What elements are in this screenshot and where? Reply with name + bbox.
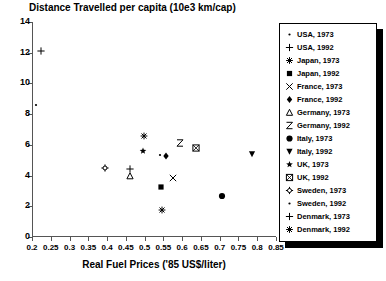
x-tick-mark [88,237,89,241]
legend-item[interactable]: Sweden, 1973 [280,184,376,197]
x-tick-label: 0.7 [214,243,225,252]
x-tick-label: 0.6 [177,243,188,252]
x-tick-mark [220,237,221,241]
legend-item[interactable]: France, 1992 [280,93,376,106]
legend-item[interactable]: Japan, 1973 [280,54,376,67]
data-point-plus [37,47,46,56]
y-tick-label: 6 [25,139,30,149]
filled-down-triangle-icon [284,146,295,157]
asterisk-icon [284,224,295,235]
legend-item-label: USA, 1992 [297,43,334,52]
y-axis-line [32,22,33,237]
x-tick-mark [51,237,52,241]
x-tick-label: 0.35 [81,243,97,252]
y-tick-label: 4 [25,170,30,180]
data-point-filled-square [156,183,165,192]
legend-item-label: UK, 1973 [297,160,329,169]
legend-item[interactable]: Japan, 1992 [280,67,376,80]
filled-circle-icon [284,133,295,144]
data-point-cross-x [168,173,177,182]
square-x-icon [284,172,295,183]
filled-star-icon [284,159,295,170]
y-tick: 10 [32,83,33,84]
legend-item[interactable]: Germany, 1973 [280,106,376,119]
y-tick: 12 [32,53,33,54]
plot-area: 02468101214 0.20.250.30.350.40.450.50.55… [32,22,276,237]
legend-item[interactable]: USA, 1973 [280,28,376,41]
x-tick-label: 0.45 [118,243,134,252]
legend-item[interactable]: Italy, 1973 [280,132,376,145]
legend-item-label: Sweden, 1992 [297,199,346,208]
y-tick: 14 [32,22,33,23]
plus-icon [284,211,295,222]
dot-icon [284,198,295,209]
legend-item-label: Japan, 1973 [297,56,340,65]
legend-item-label: UK, 1992 [297,173,329,182]
legend-item-label: France, 1992 [297,95,342,104]
legend-item[interactable]: Denmark, 1973 [280,210,376,223]
legend-item[interactable]: Italy, 1992 [280,145,376,158]
data-point-filled-star [139,147,148,156]
data-point-spoked-circle [101,163,110,172]
legend-item[interactable]: UK, 1973 [280,158,376,171]
x-tick-mark [163,237,164,241]
x-tick-mark [145,237,146,241]
filled-square-icon [284,68,295,79]
legend-item[interactable]: Germany, 1992 [280,119,376,132]
x-tick-mark [107,237,108,241]
x-tick-label: 0.25 [43,243,59,252]
data-point-filled-circle [217,192,226,201]
legend-item-label: Italy, 1973 [297,134,332,143]
y-tick-label: 0 [25,231,30,241]
x-tick-label: 0.75 [231,243,247,252]
legend-item[interactable]: France, 1973 [280,80,376,93]
data-point-square-x [192,143,201,152]
legend-item[interactable]: Sweden, 1992 [280,197,376,210]
dot-icon [284,29,295,40]
legend: USA, 1973USA, 1992Japan, 1973Japan, 1992… [279,23,377,242]
x-tick-mark [257,237,258,241]
x-tick-mark [276,237,277,241]
x-tick-label: 0.8 [252,243,263,252]
y-tick-label: 2 [25,200,30,210]
legend-item-label: Denmark, 1973 [297,212,350,221]
open-triangle-icon [284,107,295,118]
x-tick-label: 0.3 [64,243,75,252]
y-tick: 2 [32,206,33,207]
legend-item-label: Italy, 1992 [297,147,332,156]
legend-item-label: Sweden, 1973 [297,186,346,195]
legend-item-label: USA, 1973 [297,30,334,39]
data-point-filled-down-triangle [247,150,256,159]
legend-item[interactable]: Denmark, 1992 [280,223,376,236]
x-tick-mark [238,237,239,241]
y-tick-label: 10 [20,77,30,87]
y-tick: 8 [32,114,33,115]
hourglass-icon [284,120,295,131]
x-tick-mark [182,237,183,241]
x-tick-label: 0.2 [26,243,37,252]
y-tick-label: 8 [25,108,30,118]
data-point-open-triangle [126,171,135,180]
legend-item-label: Denmark, 1992 [297,225,350,234]
legend-item[interactable]: UK, 1992 [280,171,376,184]
asterisk-icon [284,55,295,66]
x-tick-label: 0.5 [139,243,150,252]
data-point-filled-diamond [161,152,170,161]
x-tick-label: 0.65 [193,243,209,252]
y-tick: 6 [32,145,33,146]
legend-item-label: Germany, 1992 [297,121,350,130]
y-tick-label: 12 [20,47,30,57]
x-tick-label: 0.4 [102,243,113,252]
data-point-hourglass [176,138,185,147]
x-tick-mark [201,237,202,241]
x-tick-mark [70,237,71,241]
x-tick-label: 0.55 [156,243,172,252]
legend-item[interactable]: USA, 1992 [280,41,376,54]
data-point-asterisk [157,206,166,215]
data-point-plus [125,165,134,174]
legend-item-label: Germany, 1973 [297,108,350,117]
filled-diamond-icon [284,94,295,105]
chart-title: Distance Travelled per capita (10e3 km/c… [29,2,236,13]
legend-item-label: France, 1973 [297,82,342,91]
data-point-asterisk [139,131,148,140]
